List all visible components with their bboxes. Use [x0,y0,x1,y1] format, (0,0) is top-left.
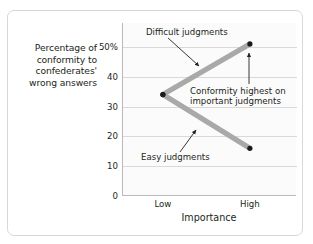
x-axis-tick-labels: LowHigh [122,199,296,213]
gridline [123,47,297,48]
annotation-difficult-judgments: Difficult judgments [146,27,228,37]
gridline [123,136,297,137]
y-axis-tick-label: 30 [82,102,118,112]
x-axis-title: Importance [122,212,296,223]
annotation-conformity-highest-line-2: important judgments [190,96,296,106]
annotation-conformity-highest-line-1: Conformity highest on [190,86,296,96]
x-axis-tick-label: High [240,199,260,209]
gridlines [123,23,296,195]
gridline [123,77,297,78]
x-axis-tick-label: Low [154,199,171,209]
plot-area [122,23,296,196]
annotation-easy-judgments: Easy judgments [141,152,210,162]
y-axis-tick-label: 20 [82,131,118,141]
annotation-conformity-highest: Conformity highest on important judgment… [190,86,296,106]
y-axis-tick-label: 40 [82,72,118,82]
y-axis-tick-label: 50% [82,42,118,52]
gridline [123,107,297,108]
y-axis-tick-label: 10 [82,161,118,171]
y-axis-tick-label: 0 [82,191,118,201]
figure-container: Percentage of conformity to confederates… [0,0,313,244]
y-axis-tick-labels: 01020304050% [82,23,118,196]
gridline [123,166,297,167]
